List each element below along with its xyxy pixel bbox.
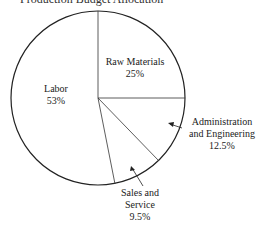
sales-service-label: Sales and Service 9.5% bbox=[115, 187, 165, 223]
admin-engineering-label: Administration and Engineering 12.5% bbox=[182, 116, 262, 152]
raw-materials-label: Raw Materials 25% bbox=[100, 56, 170, 80]
labor-label: Labor 53% bbox=[36, 83, 76, 107]
